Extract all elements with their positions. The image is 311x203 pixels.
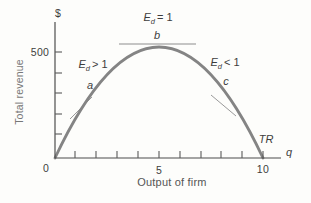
- total-revenue-elasticity-figure: $ 500 Total revenue 0 5 10 q Output of f…: [0, 0, 311, 203]
- y-axis-tick-label-500: 500: [31, 47, 49, 58]
- y-axis-currency-symbol: $: [55, 8, 61, 19]
- y-axis-title: Total revenue: [14, 59, 25, 125]
- elastic-subscript: d: [86, 64, 90, 73]
- x-axis-ticks: [75, 151, 263, 158]
- unitary-relation: = 1: [157, 11, 173, 23]
- inelastic-region-label: Ed< 1: [210, 57, 239, 68]
- y-axis-ticks: [55, 52, 62, 134]
- x-axis-title: Output of firm: [137, 177, 206, 188]
- x-axis-variable-symbol: q: [286, 147, 292, 158]
- x-axis-tick-label-5: 5: [156, 165, 162, 176]
- tr-curve-label: TR: [259, 134, 274, 145]
- point-a-label: a: [87, 80, 93, 91]
- inelastic-relation: < 1: [224, 56, 240, 68]
- unitary-region-label: Ed= 1: [143, 12, 172, 23]
- tangent-line-c: [211, 95, 236, 116]
- point-c-label: c: [223, 76, 229, 87]
- point-b-label: b: [154, 30, 160, 41]
- x-axis-tick-label-10: 10: [257, 164, 269, 175]
- elastic-relation: > 1: [92, 58, 108, 70]
- x-axis-tick-label-0: 0: [43, 163, 49, 174]
- elastic-region-label: Ed> 1: [78, 59, 107, 70]
- unitary-subscript: d: [151, 17, 155, 26]
- inelastic-subscript: d: [218, 62, 222, 71]
